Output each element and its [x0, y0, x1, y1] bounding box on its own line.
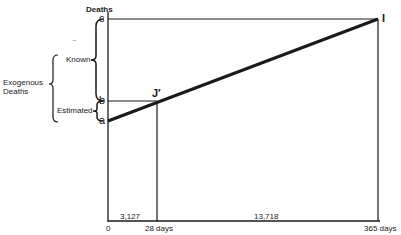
point-a-label: a [99, 115, 105, 126]
point-c-label: c [99, 13, 105, 24]
diagram-canvas [0, 0, 401, 235]
exogenous-label-line2: Deaths [3, 87, 28, 96]
known-brace [91, 19, 104, 101]
point-j-prime-label: J′ [152, 88, 161, 99]
stray-mark: ~ [72, 36, 77, 45]
known-label: Known [66, 55, 90, 64]
point-i-label: I [382, 13, 385, 24]
interval-value-second: 13,718 [254, 212, 278, 221]
estimated-label: Estimated [57, 106, 93, 115]
exogenous-label-line1: Exogenous [3, 78, 43, 87]
x-tick-origin: 0 [106, 224, 110, 233]
interval-value-first: 3,127 [120, 212, 140, 221]
x-tick-365-days: 365 days [364, 224, 396, 233]
x-tick-28-days: 28 days [145, 224, 173, 233]
trend-line [108, 19, 378, 121]
point-b-label: b [99, 95, 105, 106]
